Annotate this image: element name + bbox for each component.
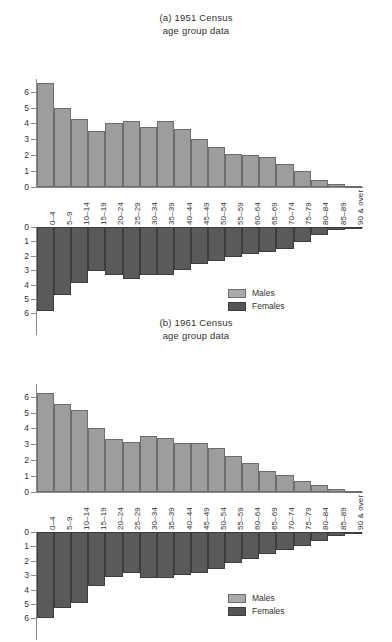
y-axis-tick [31,108,36,109]
y-axis-tick [31,413,36,414]
bar-male [208,448,225,492]
x-axis-category-label: 40–44 [186,202,194,225]
x-axis-category-label: 30–34 [151,507,159,530]
bar-female [259,227,276,252]
x-axis-line [36,187,363,188]
bar-female [225,532,242,563]
x-axis-category-label: 90 & over [357,190,365,225]
bar-female [328,532,345,536]
bar-female [105,227,122,275]
x-axis-category-label: 85–89 [340,202,348,225]
bar-male [276,164,293,187]
bar-male [37,393,54,492]
y-axis-tick [31,187,36,188]
bar-male [88,131,105,187]
x-axis-category-label: 20–24 [117,507,125,530]
bar-male [174,129,191,187]
x-axis-category-label: 70–74 [288,202,296,225]
x-axis-category-label: 5–9 [66,516,74,530]
legend-swatch-females-icon [228,607,246,616]
bar-female [105,532,122,577]
y-axis-tick-label: 4 [0,424,29,433]
bar-female [123,227,140,279]
bar-female [88,532,105,586]
bar-male [191,139,208,187]
bar-female [37,227,54,311]
x-axis-category-label: 85–89 [340,507,348,530]
x-axis-category-label: 75–79 [305,507,313,530]
x-axis-category-label: 0–4 [49,211,57,225]
bar-male [311,485,328,492]
y-axis-tick [31,155,36,156]
bar-male [54,404,71,492]
y-axis-tick-label: 0 [0,528,29,537]
bar-female [123,532,140,573]
bar-female [225,227,242,257]
y-axis-tick [31,590,36,591]
bar-female [311,227,328,235]
y-axis-tick-label: 4 [0,586,29,595]
bar-male [328,184,345,187]
bar-male [328,489,345,492]
x-axis-category-label: 55–59 [237,202,245,225]
y-axis-tick-label: 2 [0,252,29,261]
bar-male [157,121,174,187]
bar-female [88,227,105,271]
x-axis-category-label: 25–29 [134,507,142,530]
bar-male [294,171,311,187]
bar-male [71,119,88,187]
bar-male [259,157,276,187]
legend-label-males: Males [252,289,275,298]
bar-male [174,443,191,492]
legend-row-females: Females [228,607,285,616]
x-axis-category-label: 30–34 [151,202,159,225]
x-axis-category-label: 65–69 [271,202,279,225]
x-axis-labels-b: 0–45–910–1415–1920–2425–2930–3435–3940–4… [0,494,392,532]
y-axis-tick-label: 3 [0,440,29,449]
y-axis-tick-label: 2 [0,151,29,160]
y-axis-tick [31,227,36,228]
y-axis-tick-label: 5 [0,104,29,113]
legend-swatch-males-icon [228,289,246,298]
bar-male [225,154,242,187]
y-axis-tick [31,139,36,140]
chart-title-line1: (a) 1951 Census [159,12,232,23]
males-panel-b: 0123456 [0,384,392,492]
y-axis-tick-label: 4 [0,281,29,290]
x-axis-category-label: 10–14 [83,507,91,530]
bar-female [157,532,174,578]
x-axis-category-label: 50–54 [220,507,228,530]
x-axis-category-label: 80–84 [322,507,330,530]
y-axis-tick-label: 2 [0,456,29,465]
bar-female [71,227,88,283]
y-axis-tick [31,123,36,124]
y-axis-tick [31,476,36,477]
y-axis-tick-label: 6 [0,614,29,623]
bar-male [54,108,71,187]
x-axis-category-label: 20–24 [117,202,125,225]
x-axis-line [36,492,363,493]
bar-female [276,227,293,249]
bar-female [311,532,328,541]
bar-male [37,83,54,187]
bar-female [191,227,208,264]
y-axis-tick [31,532,36,533]
y-axis-tick [31,299,36,300]
bar-female [174,227,191,270]
bar-male [140,127,157,187]
bar-female [242,227,259,254]
y-axis-tick [31,492,36,493]
y-axis-tick-label: 5 [0,409,29,418]
y-axis-tick-label: 4 [0,119,29,128]
y-axis-tick [31,397,36,398]
bar-female [276,532,293,550]
bar-female [140,532,157,578]
legend-label-males: Males [252,594,275,603]
x-axis-category-label: 15–19 [100,507,108,530]
chart-title-b: (b) 1961 Census age group data [0,305,392,342]
bar-female [140,227,157,275]
legend-row-males: Males [228,594,285,603]
bar-male [345,491,362,493]
y-axis-tick-label: 3 [0,135,29,144]
y-axis-tick-label: 3 [0,266,29,275]
